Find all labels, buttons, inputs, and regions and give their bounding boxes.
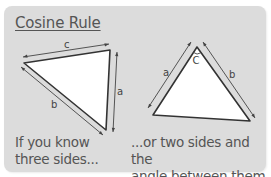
label-angle-c: C <box>193 55 200 66</box>
right-caption-line1: ...or two sides and the <box>131 134 271 168</box>
left-triangle-group: c a b <box>21 39 123 135</box>
label-a: a <box>117 86 123 97</box>
right-triangle <box>153 47 250 121</box>
left-caption-line1: If you know <box>15 134 125 151</box>
label-a: a <box>163 67 169 78</box>
right-triangle-group: C a b <box>148 42 255 121</box>
label-b: b <box>229 69 235 80</box>
left-caption-line2: three sides... <box>15 151 125 168</box>
right-caption-line2: angle between them. <box>131 168 271 177</box>
left-triangle <box>24 50 110 130</box>
left-caption: If you know three sides... <box>15 134 125 168</box>
label-c: c <box>64 39 70 50</box>
label-b: b <box>51 99 57 110</box>
right-caption: ...or two sides and the angle between th… <box>131 134 271 177</box>
